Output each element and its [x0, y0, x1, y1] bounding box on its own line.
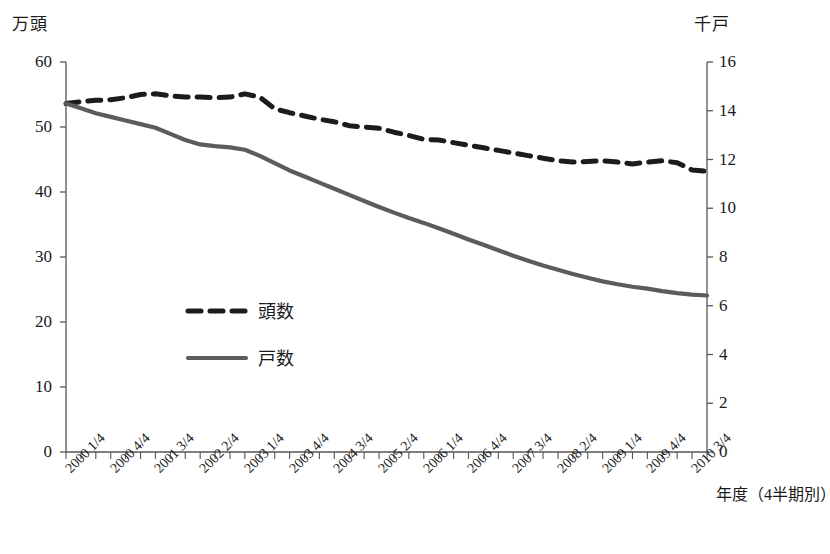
legend-label-tousuu: 頭数 — [258, 303, 294, 321]
left-axis-tick-label: 40 — [12, 183, 52, 200]
left-axis-tick-label: 0 — [12, 443, 52, 460]
right-axis-tick-label: 2 — [719, 394, 759, 411]
x-axis-title: 年度（4半期別） — [716, 481, 830, 505]
right-axis-tick-label: 10 — [719, 199, 759, 216]
right-axis-tick-label: 14 — [719, 102, 759, 119]
right-axis-tick-label: 4 — [719, 346, 759, 363]
right-axis-tick-label: 16 — [719, 53, 759, 70]
left-axis-tick-label: 30 — [12, 248, 52, 265]
left-axis-tick-label: 20 — [12, 313, 52, 330]
left-axis-tick-label: 50 — [12, 118, 52, 135]
left-axis-tick-label: 10 — [12, 378, 52, 395]
right-axis-tick-label: 8 — [719, 248, 759, 265]
left-axis-tick-label: 60 — [12, 53, 52, 70]
legend-label-kosuu: 戸数 — [258, 350, 294, 368]
right-axis-tick-label: 12 — [719, 151, 759, 168]
right-axis-tick-label: 6 — [719, 297, 759, 314]
